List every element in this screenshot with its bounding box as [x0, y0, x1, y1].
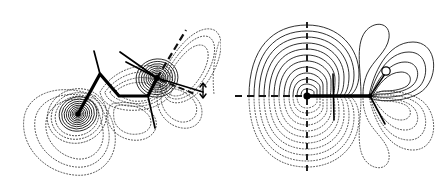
contour-svg-right: [221, 0, 441, 191]
contour-panel-right: [221, 0, 441, 191]
nucleus-main-dot: [303, 92, 310, 99]
contour-panel-left: [0, 0, 221, 191]
bond-methyl-a: [94, 51, 100, 74]
right-positive-contours: [249, 24, 434, 100]
bond-vertical-short: [333, 74, 334, 120]
critical-point-circle-icon: [382, 67, 390, 75]
right-negative-contours: [249, 91, 434, 167]
nucleus-right-dot: [154, 75, 160, 81]
figure-container: Electron density difference contour maps…: [0, 0, 441, 191]
nucleus-secondary-dot: [368, 94, 372, 98]
contour-svg-left: [0, 0, 221, 191]
nucleus-left-dot: [75, 111, 80, 116]
left-negative-contours: [24, 29, 221, 175]
